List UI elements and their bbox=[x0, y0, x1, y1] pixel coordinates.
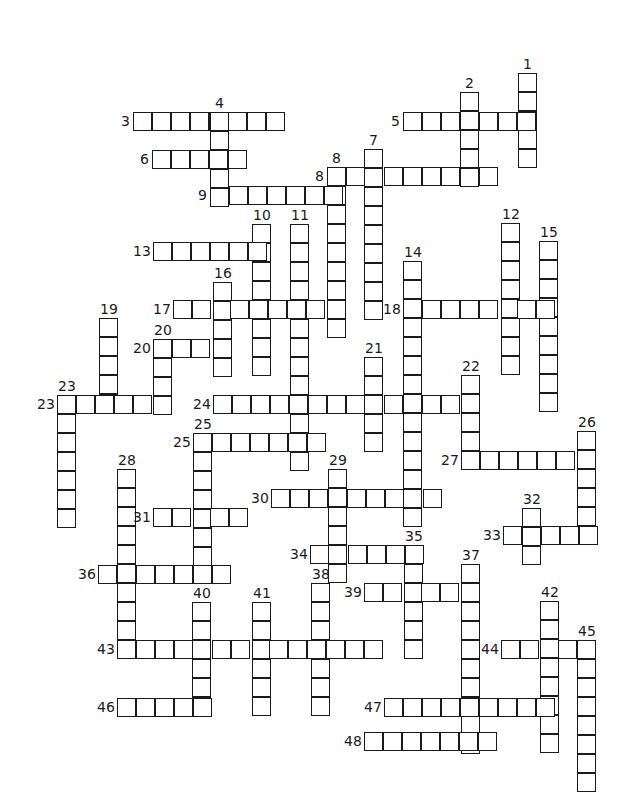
grid-cell[interactable] bbox=[560, 526, 579, 545]
grid-cell[interactable] bbox=[364, 732, 383, 751]
grid-cell[interactable] bbox=[501, 640, 520, 659]
grid-cell[interactable] bbox=[460, 92, 479, 111]
grid-cell[interactable] bbox=[501, 356, 520, 375]
grid-cell[interactable] bbox=[231, 433, 250, 452]
grid-cell[interactable] bbox=[192, 678, 211, 697]
grid-cell[interactable] bbox=[57, 395, 76, 414]
grid-cell[interactable] bbox=[539, 374, 558, 393]
grid-cell[interactable] bbox=[461, 583, 480, 602]
grid-cell[interactable] bbox=[153, 242, 172, 261]
grid-cell[interactable] bbox=[174, 565, 193, 584]
grid-cell[interactable] bbox=[213, 282, 232, 301]
grid-cell[interactable] bbox=[522, 546, 541, 565]
grid-cell[interactable] bbox=[404, 602, 423, 621]
grid-cell[interactable] bbox=[190, 150, 209, 169]
grid-cell[interactable] bbox=[152, 112, 171, 131]
grid-cell[interactable] bbox=[460, 111, 479, 130]
grid-cell[interactable] bbox=[403, 280, 422, 299]
grid-cell[interactable] bbox=[190, 112, 209, 131]
grid-cell[interactable] bbox=[403, 167, 422, 186]
grid-cell[interactable] bbox=[540, 658, 559, 677]
grid-cell[interactable] bbox=[364, 357, 383, 376]
grid-cell[interactable] bbox=[364, 244, 383, 263]
grid-cell[interactable] bbox=[461, 640, 480, 659]
grid-cell[interactable] bbox=[193, 471, 212, 490]
grid-cell[interactable] bbox=[98, 565, 117, 584]
grid-cell[interactable] bbox=[364, 640, 383, 659]
grid-cell[interactable] bbox=[404, 621, 423, 640]
grid-cell[interactable] bbox=[213, 358, 232, 377]
grid-cell[interactable] bbox=[174, 640, 193, 659]
grid-cell[interactable] bbox=[404, 640, 423, 659]
grid-cell[interactable] bbox=[461, 621, 480, 640]
grid-cell[interactable] bbox=[364, 263, 383, 282]
grid-cell[interactable] bbox=[288, 433, 307, 452]
grid-cell[interactable] bbox=[57, 433, 76, 452]
grid-cell[interactable] bbox=[364, 301, 383, 320]
grid-cell[interactable] bbox=[517, 112, 536, 131]
grid-cell[interactable] bbox=[193, 565, 212, 584]
grid-cell[interactable] bbox=[117, 545, 136, 564]
grid-cell[interactable] bbox=[422, 300, 441, 319]
grid-cell[interactable] bbox=[252, 602, 271, 621]
grid-cell[interactable] bbox=[348, 545, 367, 564]
grid-cell[interactable] bbox=[461, 413, 480, 432]
grid-cell[interactable] bbox=[248, 242, 267, 261]
grid-cell[interactable] bbox=[540, 715, 559, 734]
grid-cell[interactable] bbox=[577, 697, 596, 716]
grid-cell[interactable] bbox=[57, 414, 76, 433]
grid-cell[interactable] bbox=[346, 167, 365, 186]
grid-cell[interactable] bbox=[326, 640, 345, 659]
grid-cell[interactable] bbox=[364, 282, 383, 301]
grid-cell[interactable] bbox=[479, 300, 498, 319]
grid-cell[interactable] bbox=[384, 395, 403, 414]
grid-cell[interactable] bbox=[540, 620, 559, 639]
grid-cell[interactable] bbox=[364, 149, 383, 168]
grid-cell[interactable] bbox=[117, 583, 136, 602]
grid-cell[interactable] bbox=[328, 564, 347, 583]
grid-cell[interactable] bbox=[286, 186, 305, 205]
grid-cell[interactable] bbox=[540, 677, 559, 696]
grid-cell[interactable] bbox=[501, 280, 520, 299]
grid-cell[interactable] bbox=[441, 698, 460, 717]
grid-cell[interactable] bbox=[577, 507, 596, 526]
grid-cell[interactable] bbox=[252, 319, 271, 338]
grid-cell[interactable] bbox=[136, 565, 155, 584]
grid-cell[interactable] bbox=[290, 489, 309, 508]
grid-cell[interactable] bbox=[460, 149, 479, 168]
grid-cell[interactable] bbox=[461, 451, 480, 470]
grid-cell[interactable] bbox=[460, 168, 479, 187]
grid-cell[interactable] bbox=[366, 489, 385, 508]
grid-cell[interactable] bbox=[518, 149, 537, 168]
grid-cell[interactable] bbox=[212, 433, 231, 452]
grid-cell[interactable] bbox=[210, 112, 229, 131]
grid-cell[interactable] bbox=[577, 716, 596, 735]
grid-cell[interactable] bbox=[328, 545, 347, 564]
grid-cell[interactable] bbox=[364, 225, 383, 244]
grid-cell[interactable] bbox=[99, 337, 118, 356]
grid-cell[interactable] bbox=[290, 376, 309, 395]
grid-cell[interactable] bbox=[193, 433, 212, 452]
grid-cell[interactable] bbox=[540, 601, 559, 620]
grid-cell[interactable] bbox=[213, 320, 232, 339]
grid-cell[interactable] bbox=[345, 640, 364, 659]
grid-cell[interactable] bbox=[172, 339, 191, 358]
grid-cell[interactable] bbox=[252, 281, 271, 300]
grid-cell[interactable] bbox=[577, 488, 596, 507]
grid-cell[interactable] bbox=[288, 640, 307, 659]
grid-cell[interactable] bbox=[213, 339, 232, 358]
grid-cell[interactable] bbox=[460, 300, 479, 319]
grid-cell[interactable] bbox=[324, 186, 343, 205]
grid-cell[interactable] bbox=[252, 678, 271, 697]
grid-cell[interactable] bbox=[192, 659, 211, 678]
grid-cell[interactable] bbox=[364, 395, 383, 414]
grid-cell[interactable] bbox=[520, 640, 539, 659]
grid-cell[interactable] bbox=[290, 281, 309, 300]
grid-cell[interactable] bbox=[517, 698, 536, 717]
grid-cell[interactable] bbox=[364, 187, 383, 206]
grid-cell[interactable] bbox=[210, 242, 229, 261]
grid-cell[interactable] bbox=[327, 395, 346, 414]
grid-cell[interactable] bbox=[501, 337, 520, 356]
grid-cell[interactable] bbox=[403, 318, 422, 337]
grid-cell[interactable] bbox=[461, 659, 480, 678]
